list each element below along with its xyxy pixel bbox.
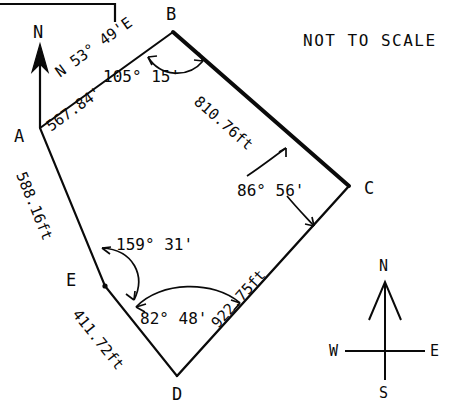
angle-label-b: 105° 15' (103, 69, 180, 85)
side-e-a (40, 128, 105, 286)
vertex-label-e: E (66, 272, 76, 289)
compass-label-north: N (379, 259, 388, 274)
angle-label-d: 82° 48' (140, 311, 207, 327)
angle-arc-e-head-left (102, 247, 111, 254)
vertex-label-c: C (364, 180, 374, 197)
vertex-label-b: B (166, 6, 176, 23)
north-arrow-label: N (33, 24, 43, 41)
frame-box-corner (0, 4, 115, 22)
compass-label-south: S (379, 386, 388, 401)
vertex-dot-e (102, 283, 107, 288)
angle-arc-e (102, 247, 139, 300)
compass-rose (345, 282, 425, 380)
survey-plat-diagram: A B C D E N N 53° 49'E 567.84' 810.76ft … (0, 0, 456, 416)
angle-label-e: 159° 31' (116, 237, 193, 253)
not-to-scale-note: NOT TO SCALE (303, 33, 437, 49)
compass-label-east: E (430, 344, 439, 359)
angle-label-c: 86° 56' (237, 183, 304, 199)
north-arrow (32, 44, 48, 128)
compass-label-west: W (329, 344, 338, 359)
angle-arc-e-head-down (126, 291, 135, 300)
vertex-label-a: A (14, 128, 24, 145)
vertex-label-d: D (172, 386, 182, 403)
